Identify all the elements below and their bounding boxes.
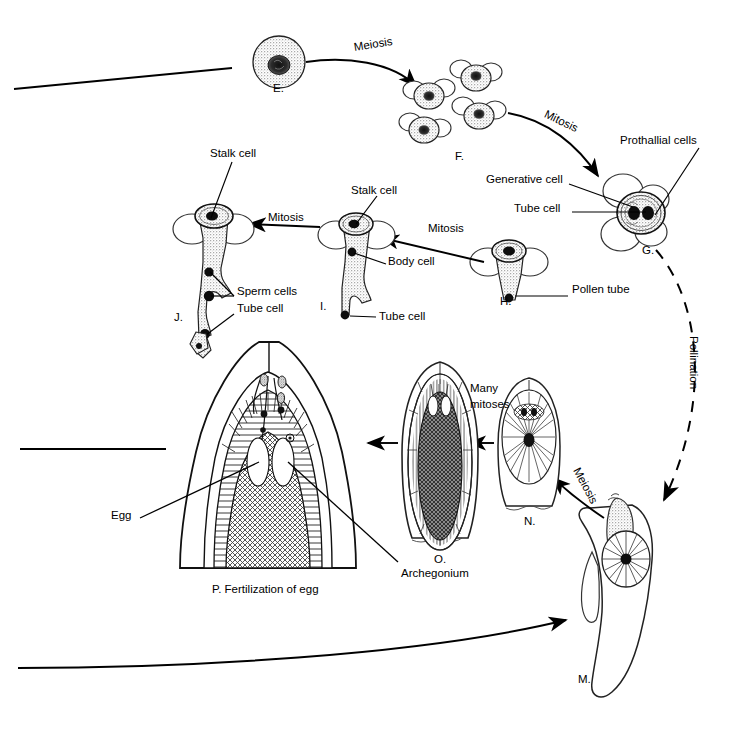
label-mitosis-i-to-j: Mitosis: [268, 211, 304, 224]
leader-tube-cell-i: [350, 316, 376, 317]
label-tube-cell-j: Tube cell: [237, 302, 283, 315]
stage-J-pollen-tube-sperm-cells: [173, 204, 254, 358]
arrow-mitosis-i-to-j: [249, 224, 320, 227]
stage-E-microspore-mother-cell: [253, 36, 305, 88]
stage-label-I: I.: [320, 300, 326, 313]
stage-label-H: H.: [500, 295, 512, 308]
stage-I-pollen-tube-body-cell: [318, 213, 395, 319]
stage-P-fertilization: [180, 332, 356, 568]
stage-label-M: M.: [578, 673, 591, 686]
label-tube-cell-i: Tube cell: [379, 310, 425, 323]
label-tube-cell-g: Tube cell: [514, 202, 560, 215]
stage-label-J: J.: [174, 311, 183, 324]
label-sperm-cells: Sperm cells: [237, 285, 297, 298]
leader-tube-cell-j: [206, 314, 234, 335]
stage-O-mature-female-gametophyte: [402, 362, 478, 554]
edge-line-top-left: [14, 68, 232, 89]
stage-label-E: E.: [273, 82, 284, 95]
arrow-meiosis-e-to-f: [306, 60, 416, 86]
label-egg: Egg: [111, 509, 131, 522]
diagram-canvas: Meiosis E. F. Mitosis Prothallial cells …: [0, 0, 746, 729]
label-many-mitoses-line2: mitoses: [470, 398, 510, 411]
stage-label-O: O.: [434, 553, 446, 566]
label-pollen-tube: Pollen tube: [572, 283, 630, 296]
label-generative-cell: Generative cell: [486, 173, 563, 186]
arrow-cycle-bottom: [18, 620, 566, 668]
stage-label-F: F.: [455, 150, 464, 163]
diagram-svg: [0, 0, 746, 729]
label-prothallial-cells: Prothallial cells: [620, 134, 697, 147]
label-archegonium: Archegonium: [401, 567, 469, 580]
label-pollination: Pollination: [687, 336, 700, 389]
stage-label-N: N.: [524, 515, 536, 528]
stage-M-ovule: [579, 494, 652, 697]
label-fertilization-caption: P. Fertilization of egg: [212, 583, 319, 596]
leader-prothallial-cells: [655, 148, 699, 215]
stage-label-G: G.: [642, 244, 654, 257]
label-many-mitoses-line1: Many: [470, 382, 498, 395]
label-body-cell: Body cell: [388, 255, 435, 268]
label-stalk-cell-j: Stalk cell: [210, 147, 256, 160]
stage-H-germinating-pollen-grain: [470, 240, 548, 302]
stage-F-microspore-tetrad: [399, 60, 506, 143]
label-stalk-cell-i: Stalk cell: [351, 184, 397, 197]
label-mitosis-h-to-i: Mitosis: [428, 222, 464, 235]
